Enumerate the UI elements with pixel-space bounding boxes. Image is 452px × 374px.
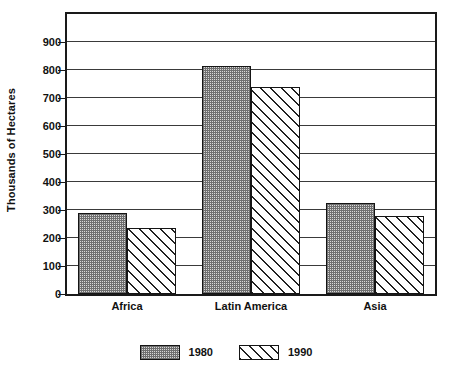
x-axis-label-asia: Asia [363, 300, 386, 312]
x-axis-label-latin-america: Latin America [215, 300, 287, 312]
legend-swatch-1990 [239, 345, 279, 360]
y-axis-tick-label: 800 [25, 65, 61, 76]
y-axis-tick-label: 700 [25, 93, 61, 104]
y-axis-tick-mark [58, 238, 65, 239]
legend-swatch-1980 [140, 345, 180, 360]
y-axis-tick-mark [58, 126, 65, 127]
legend-entry-1990[interactable]: 1990 [239, 345, 312, 360]
bar-latin-america-1980 [202, 66, 251, 294]
bar-africa-1990 [127, 228, 176, 294]
y-axis-tick-label: 900 [25, 37, 61, 48]
y-axis-title: Thousands of Hectares [0, 0, 22, 300]
y-axis-tick-mark [58, 154, 65, 155]
bars-layer [65, 12, 437, 296]
bar-asia-1990 [375, 216, 424, 294]
y-axis-tick-label: 500 [25, 149, 61, 160]
bar-asia-1980 [326, 203, 375, 294]
bar-africa-1980 [78, 213, 127, 294]
y-axis-tick-mark [58, 70, 65, 71]
y-axis-tick-mark [58, 294, 65, 295]
x-axis-category-labels: AfricaLatin AmericaAsia [65, 300, 437, 320]
legend-label-1990: 1990 [288, 347, 312, 358]
legend: 19801990 [0, 340, 452, 364]
y-axis-tick-label: 300 [25, 205, 61, 216]
legend-label-1980: 1980 [189, 347, 213, 358]
x-axis-label-africa: Africa [111, 300, 142, 312]
y-axis-tick-mark [58, 98, 65, 99]
bar-chart: Thousands of Hectares 010020030040050060… [0, 0, 452, 374]
y-axis-title-text: Thousands of Hectares [5, 88, 17, 212]
y-axis-tick-mark [58, 210, 65, 211]
y-axis-tick-label: 100 [25, 261, 61, 272]
y-axis-tick-label: 200 [25, 233, 61, 244]
y-axis-tick-label: 0 [25, 289, 61, 300]
legend-entry-1980[interactable]: 1980 [140, 345, 213, 360]
y-axis-tick-mark [58, 42, 65, 43]
y-axis-tick-label: 600 [25, 121, 61, 132]
bar-latin-america-1990 [251, 87, 300, 294]
y-axis-tick-labels: 0100200300400500600700800900 [22, 12, 61, 296]
y-axis-tick-label: 400 [25, 177, 61, 188]
y-axis-tick-mark [58, 182, 65, 183]
y-axis-tick-mark [58, 266, 65, 267]
